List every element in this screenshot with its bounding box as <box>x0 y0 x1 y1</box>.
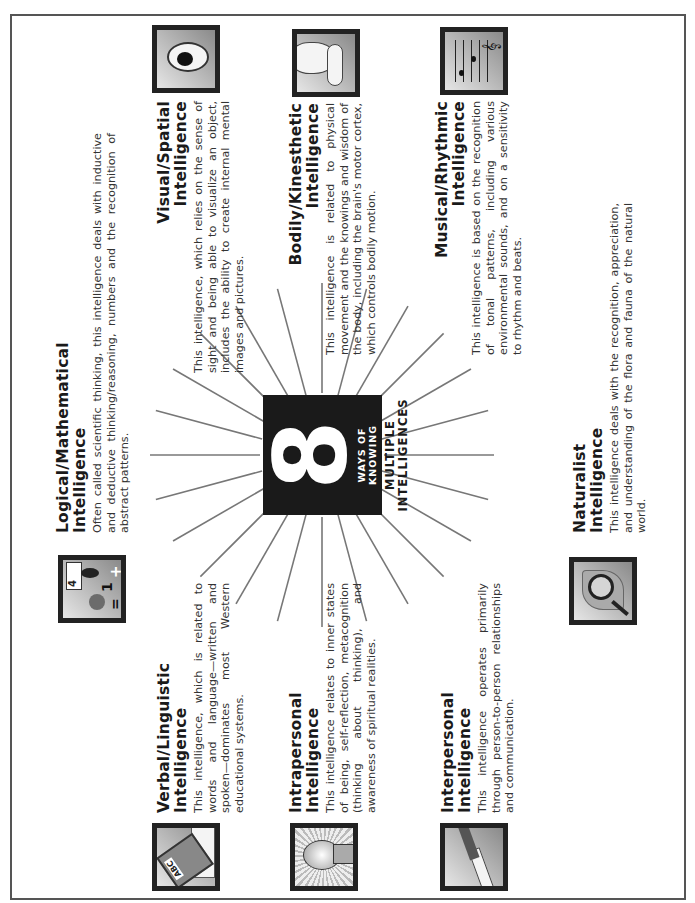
title-line2: Intelligence <box>173 101 190 373</box>
section-description: This intelligence is related to physical… <box>324 103 378 355</box>
section-naturalist: Naturalist Intelligence This intelligenc… <box>572 203 649 533</box>
title-line1: Logical/Mathematical <box>55 133 72 533</box>
music-notes-icon: 𝄞 <box>440 27 508 95</box>
math-icon-digit: 4 <box>66 562 82 590</box>
title-line1: Intrapersonal <box>288 583 305 813</box>
title-line2: Intelligence <box>589 203 606 533</box>
flexed-arm-icon <box>292 29 360 97</box>
section-visual-spatial: Visual/Spatial Intelligence This intelli… <box>156 101 246 373</box>
section-description: This intelligence operates primarily thr… <box>476 583 517 813</box>
section-verbal-linguistic: Verbal/Linguistic Intelligence This inte… <box>156 583 246 813</box>
section-description: This intelligence relates to inner state… <box>324 583 378 813</box>
section-title: Intrapersonal Intelligence <box>288 583 322 813</box>
number-eight: 8 <box>267 409 357 501</box>
title-line2: Intelligence <box>457 583 474 813</box>
section-description: This intelligence deals with the recogni… <box>608 203 649 533</box>
head-silhouette-icon <box>290 823 358 891</box>
center-title-line2: INTELLIGENCES <box>397 395 410 515</box>
math-icon-plus: + <box>107 565 121 578</box>
section-title: Bodily/Kinesthetic Intelligence <box>288 103 322 355</box>
math-icon-equals: = <box>107 598 121 610</box>
section-title: Verbal/Linguistic Intelligence <box>156 583 190 813</box>
center-title: MULTIPLE INTELLIGENCES <box>384 395 410 515</box>
section-description: Often called scientific thinking, this i… <box>91 133 132 533</box>
abc-book-icon: ABC <box>152 823 220 891</box>
section-title: Logical/Mathematical Intelligence <box>55 133 89 533</box>
handshake-icon <box>440 823 508 891</box>
section-title: Visual/Spatial Intelligence <box>156 101 190 373</box>
title-line2: Intelligence <box>305 583 322 813</box>
title-line1: Naturalist <box>572 203 589 533</box>
abc-label: ABC <box>164 857 184 880</box>
title-line1: Musical/Rhythmic <box>434 101 451 355</box>
section-title: Musical/Rhythmic Intelligence <box>434 101 468 355</box>
section-title: Naturalist Intelligence <box>572 203 606 533</box>
title-line1: Interpersonal <box>440 583 457 813</box>
magnifier-leaf-icon <box>569 557 637 625</box>
center-subtitle: WAYS OF KNOWING <box>356 401 378 509</box>
eye-icon <box>152 25 220 93</box>
section-musical-rhythmic: Musical/Rhythmic Intelligence This intel… <box>434 101 524 355</box>
math-icon-one: 1 <box>99 582 115 592</box>
section-description: This intelligence is based on the recogn… <box>470 101 524 355</box>
poster-page: 8 WAYS OF KNOWING MULTIPLE INTELLIGENCES… <box>0 0 695 903</box>
section-description: This intelligence, which relies on the s… <box>192 101 246 373</box>
section-bodily-kinesthetic: Bodily/Kinesthetic Intelligence This int… <box>288 103 378 355</box>
section-interpersonal: Interpersonal Intelligence This intellig… <box>440 583 517 813</box>
math-symbols-icon: 4 1 = + <box>58 555 126 623</box>
section-intrapersonal: Intrapersonal Intelligence This intellig… <box>288 583 378 813</box>
title-line1: Visual/Spatial <box>156 101 173 373</box>
title-line2: Intelligence <box>305 103 322 355</box>
title-line2: Intelligence <box>173 583 190 813</box>
title-line1: Verbal/Linguistic <box>156 583 173 813</box>
section-title: Interpersonal Intelligence <box>440 583 474 813</box>
title-line2: Intelligence <box>451 101 468 355</box>
section-logical-mathematical: Logical/Mathematical Intelligence Often … <box>55 133 132 533</box>
section-description: This intelligence, which is related to w… <box>192 583 246 813</box>
title-line2: Intelligence <box>72 133 89 533</box>
center-emblem: 8 WAYS OF KNOWING <box>263 395 382 515</box>
title-line1: Bodily/Kinesthetic <box>288 103 305 355</box>
